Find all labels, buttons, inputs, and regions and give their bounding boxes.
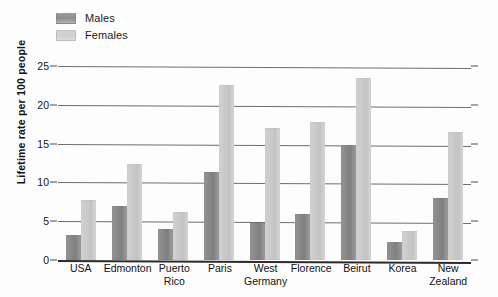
legend-label-males: Males [85, 12, 115, 25]
y-tick-label: 15 [37, 138, 49, 149]
chart-legend: Males Females [56, 10, 186, 44]
bar-group [58, 66, 104, 260]
bar-females-west-germany [265, 128, 280, 260]
legend-item-males: Males [56, 10, 186, 27]
x-axis-label: Paris [197, 262, 243, 287]
x-axis-label: USA [58, 262, 104, 287]
x-axis-label-line: Beirut [334, 262, 380, 275]
bar-group [196, 66, 242, 260]
x-axis-label-line: Rico [152, 275, 198, 288]
bar-females-usa [81, 200, 96, 260]
bar-group [242, 66, 288, 260]
x-axis-label-line: Edmonton [104, 262, 152, 275]
bar-females-edmonton [127, 164, 142, 260]
y-tick-mark [50, 260, 57, 261]
x-axis-label: Edmonton [104, 262, 152, 287]
legend-item-females: Females [56, 27, 186, 44]
bar-males-new-zealand [433, 198, 448, 260]
bar-males-usa [66, 235, 81, 260]
bar-males-beirut [341, 145, 356, 260]
x-axis-label-line: Korea [380, 262, 426, 275]
x-axis-label-line: New [425, 262, 471, 275]
x-axis-label: Florence [288, 262, 334, 287]
legend-label-females: Females [85, 29, 128, 42]
bar-males-florence [295, 214, 310, 260]
x-axis-label-line: Paris [197, 262, 243, 275]
y-tick-mark-right [471, 182, 478, 183]
bar-females-beirut [356, 78, 371, 260]
y-tick-mark-right [471, 104, 478, 105]
x-axis-label: WestGermany [243, 262, 289, 287]
bar-females-florence [310, 122, 325, 260]
x-axis-label-line: Florence [288, 262, 334, 275]
x-axis-label: Korea [380, 262, 426, 287]
bar-males-korea [387, 242, 402, 260]
y-tick-mark-right [471, 66, 478, 67]
plot-area: 0510152025 [58, 66, 471, 260]
bar-groups [58, 66, 471, 260]
x-axis-label-line: Puerto [152, 262, 198, 275]
x-axis-label: PuertoRico [152, 262, 198, 287]
bar-chart: Males Females Lifetime rate per 100 peop… [0, 0, 498, 297]
x-axis-labels: USAEdmontonPuertoRicoParisWestGermanyFlo… [58, 262, 471, 287]
x-axis-label: NewZealand [425, 262, 471, 287]
y-tick-mark [50, 66, 57, 67]
y-tick-label: 0 [43, 255, 49, 266]
bar-males-west-germany [250, 223, 265, 260]
bar-males-edmonton [112, 206, 127, 260]
bar-males-paris [204, 172, 219, 260]
x-axis-label-line: Germany [243, 275, 289, 288]
bar-group [150, 66, 196, 260]
x-axis-label-line: West [243, 262, 289, 275]
y-tick-label: 10 [37, 177, 49, 188]
y-axis-title: Lifetime rate per 100 people [15, 7, 27, 217]
bar-group [287, 66, 333, 260]
bar-males-puerto-rico [158, 229, 173, 260]
y-tick-mark-right [471, 221, 478, 222]
bar-group [425, 66, 471, 260]
bar-group [333, 66, 379, 260]
y-tick-mark-right [471, 143, 478, 144]
y-tick-mark [50, 143, 57, 144]
y-tick-mark [50, 104, 57, 105]
bar-females-new-zealand [448, 132, 463, 260]
y-tick-mark-right [471, 260, 478, 261]
y-tick-mark [50, 182, 57, 183]
bar-females-korea [402, 231, 417, 260]
legend-swatch-females-icon [56, 30, 76, 41]
y-tick-label: 25 [37, 61, 49, 72]
bar-females-paris [219, 85, 234, 260]
y-tick-mark [50, 221, 57, 222]
x-axis-label-line: Zealand [425, 275, 471, 288]
y-tick-label: 5 [43, 216, 49, 227]
legend-swatch-males-icon [56, 13, 76, 24]
y-tick-label: 20 [37, 99, 49, 110]
x-axis-label: Beirut [334, 262, 380, 287]
bar-group [104, 66, 150, 260]
bar-females-puerto-rico [173, 212, 188, 260]
x-axis-label-line: USA [58, 262, 104, 275]
bar-group [379, 66, 425, 260]
